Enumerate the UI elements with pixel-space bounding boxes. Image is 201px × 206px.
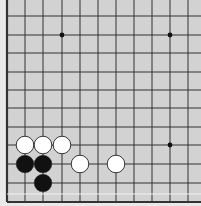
white-stone[interactable] [107, 155, 125, 173]
white-stone[interactable] [71, 155, 89, 173]
black-stone[interactable] [16, 155, 34, 173]
star-point-icon [168, 33, 173, 38]
white-stone[interactable] [34, 136, 52, 154]
star-point-icon [60, 33, 65, 38]
go-board [0, 0, 201, 206]
white-stone[interactable] [53, 136, 71, 154]
star-point-icon [168, 143, 173, 148]
board-background [7, 0, 201, 203]
white-stone[interactable] [16, 136, 34, 154]
black-stone[interactable] [34, 155, 52, 173]
black-stone[interactable] [34, 174, 52, 192]
